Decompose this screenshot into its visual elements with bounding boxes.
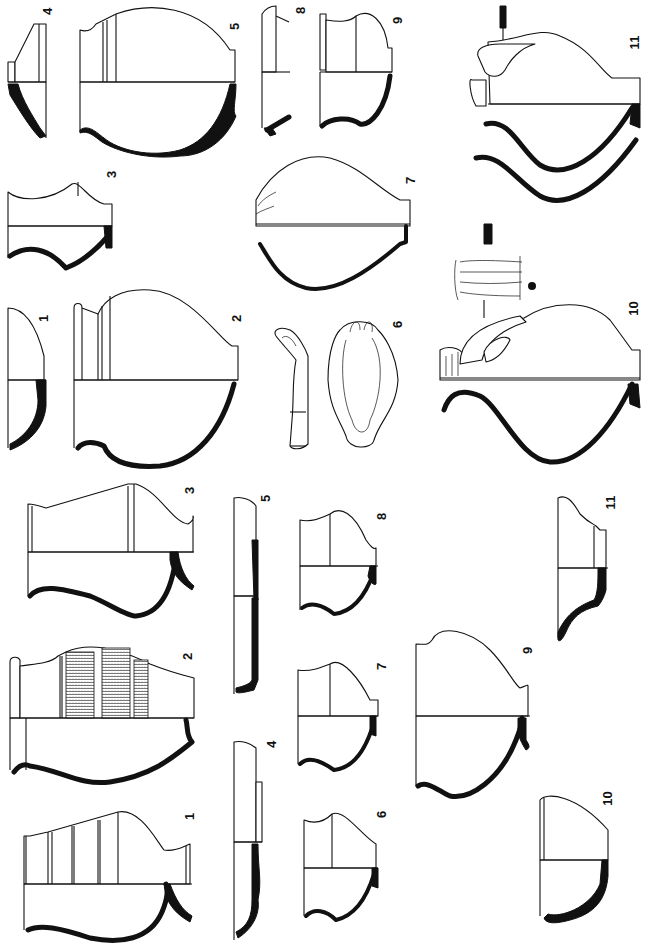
- figure-lower-9: [416, 631, 530, 797]
- figure-upper-10: [440, 224, 640, 462]
- figure-lower-10: [540, 796, 608, 923]
- label-upper-6: 6: [391, 321, 404, 328]
- label-lower-2: 2: [181, 653, 194, 660]
- label-lower-9: 9: [521, 647, 534, 654]
- figure-lower-8: [300, 511, 378, 614]
- figure-upper-6: [275, 322, 398, 449]
- label-upper-2: 2: [230, 315, 243, 322]
- label-upper-9: 9: [391, 17, 404, 24]
- figure-upper-9: [320, 14, 392, 126]
- label-upper-10: 10: [627, 301, 640, 315]
- figure-lower-11: [558, 497, 608, 641]
- label-lower-10: 10: [601, 791, 614, 805]
- label-lower-6: 6: [375, 811, 388, 818]
- label-upper-11: 11: [628, 36, 641, 50]
- figure-lower-2: [10, 647, 194, 783]
- label-upper-5: 5: [228, 23, 241, 30]
- label-lower-4: 4: [265, 741, 278, 748]
- figure-upper-11: [470, 6, 640, 200]
- label-lower-5: 5: [259, 495, 272, 502]
- label-upper-1: 1: [37, 315, 50, 322]
- pottery-plate: [0, 0, 646, 948]
- label-upper-8: 8: [294, 7, 307, 14]
- label-lower-8: 8: [375, 513, 388, 520]
- figure-lower-7: [298, 662, 378, 770]
- label-lower-7: 7: [375, 663, 388, 670]
- label-lower-1: 1: [183, 813, 196, 820]
- figure-upper-8: [262, 6, 290, 136]
- label-upper-3: 3: [105, 171, 118, 178]
- figure-upper-2: [74, 290, 238, 467]
- label-lower-3: 3: [183, 487, 196, 494]
- figure-lower-5: [234, 497, 258, 694]
- figure-upper-4: [8, 24, 46, 138]
- label-upper-7: 7: [404, 177, 417, 184]
- figure-upper-3: [8, 182, 112, 268]
- figure-lower-1: [24, 812, 192, 941]
- figure-lower-3: [28, 484, 194, 616]
- figure-upper-7: [256, 157, 410, 289]
- figure-lower-6: [304, 813, 378, 920]
- label-upper-4: 4: [41, 8, 54, 15]
- figure-upper-1: [8, 308, 46, 450]
- label-lower-11: 11: [604, 496, 617, 510]
- figure-upper-5: [80, 8, 236, 157]
- figure-lower-4: [234, 741, 262, 940]
